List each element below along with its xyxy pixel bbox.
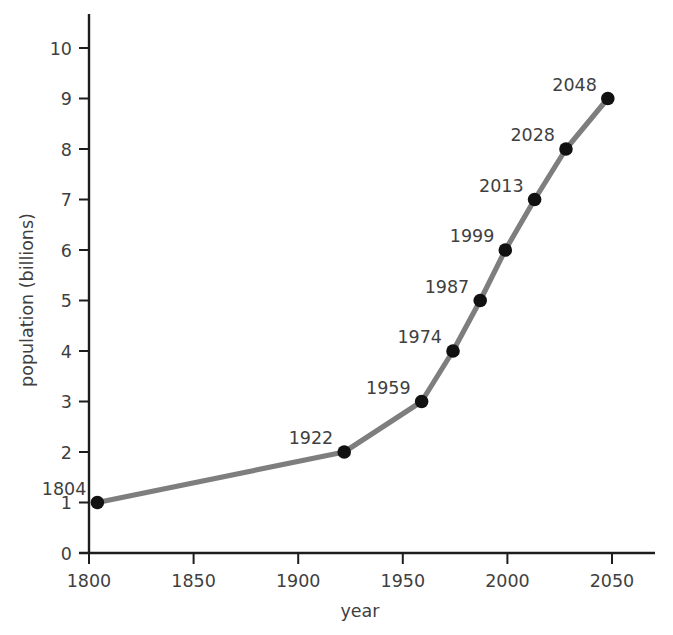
y-tick-label: 2 [61, 443, 72, 463]
x-axis-title: year [340, 601, 380, 621]
data-point-marker[interactable] [559, 142, 573, 156]
population-line-chart: 012345678910 180018501900195020002050 18… [0, 0, 673, 635]
y-tick-label: 0 [61, 544, 72, 564]
y-tick-label: 7 [61, 190, 72, 210]
y-tick-label: 6 [61, 241, 72, 261]
y-tick-label: 8 [61, 140, 72, 160]
x-tick-label: 2050 [590, 571, 635, 591]
chart-canvas: 012345678910 180018501900195020002050 18… [0, 0, 673, 635]
data-point-label: 1922 [289, 428, 334, 448]
point-labels: 180419221959197419871999201320282048 [42, 75, 597, 499]
data-point-label: 1987 [425, 277, 470, 297]
data-point-marker[interactable] [91, 496, 105, 510]
data-series [91, 92, 615, 510]
x-tick-label: 1850 [171, 571, 216, 591]
y-tick-label: 10 [50, 39, 72, 59]
data-point-marker[interactable] [337, 445, 351, 459]
y-tick-label: 5 [61, 291, 72, 311]
data-point-label: 1974 [397, 327, 442, 347]
data-point-marker[interactable] [415, 395, 429, 409]
y-axis-title: population (billions) [17, 213, 37, 387]
data-point-marker[interactable] [499, 243, 513, 257]
y-tick-label: 3 [61, 392, 72, 412]
x-tick-label: 1950 [381, 571, 426, 591]
x-axis: 180018501900195020002050 [67, 553, 655, 591]
x-tick-label: 1800 [67, 571, 112, 591]
data-point-marker[interactable] [528, 193, 542, 207]
data-point-label: 2048 [552, 75, 597, 95]
y-tick-label: 9 [61, 89, 72, 109]
series-polyline [97, 99, 607, 503]
data-point-marker[interactable] [601, 92, 615, 106]
data-point-label: 1959 [366, 378, 411, 398]
data-point-marker[interactable] [473, 294, 487, 308]
y-tick-label: 4 [61, 342, 72, 362]
data-point-label: 2013 [479, 176, 524, 196]
data-point-label: 1804 [42, 479, 87, 499]
x-tick-label: 2000 [485, 571, 530, 591]
data-point-label: 2028 [510, 125, 555, 145]
data-point-marker[interactable] [446, 344, 460, 358]
data-point-label: 1999 [450, 226, 495, 246]
x-tick-label: 1900 [276, 571, 321, 591]
